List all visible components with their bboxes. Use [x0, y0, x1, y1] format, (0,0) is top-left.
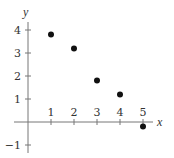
axes: [14, 22, 153, 153]
x-tick-label: 5: [140, 106, 147, 119]
y-tick-label: 1: [14, 93, 21, 106]
y-tick-label: 3: [14, 47, 21, 60]
x-tick-label: 2: [71, 106, 78, 119]
y-axis-label: y: [22, 5, 29, 19]
y-tick-label: 4: [14, 24, 21, 37]
data-point: [71, 45, 77, 51]
y-tick-label: 2: [14, 70, 21, 83]
data-point: [48, 32, 54, 38]
x-tick-label: 1: [48, 106, 55, 119]
x-axis-label: x: [156, 115, 163, 129]
data-point: [94, 78, 100, 84]
x-tick-label: 3: [94, 106, 101, 119]
scatter-chart: 12345 −11234 x y: [0, 0, 174, 158]
y-axis-ticks: −11234: [5, 24, 31, 152]
y-tick-label: −1: [5, 139, 21, 152]
data-point: [117, 91, 123, 97]
x-tick-label: 4: [117, 106, 124, 119]
data-point: [140, 124, 146, 130]
